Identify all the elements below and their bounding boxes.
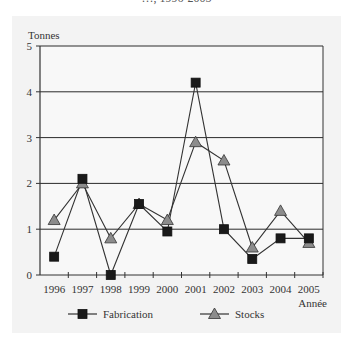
square-marker [304, 234, 313, 243]
y-axis-title: Tonnes [28, 29, 60, 41]
x-tick-label: 1999 [128, 283, 151, 295]
square-marker [219, 225, 228, 234]
x-tick-label: 1998 [100, 283, 123, 295]
square-marker [78, 174, 87, 183]
square-marker [163, 227, 172, 236]
x-tick-label: 2003 [241, 283, 264, 295]
line-chart: 0123451996199719981999200020012002200320… [0, 0, 353, 347]
triangle-marker [209, 308, 221, 319]
y-tick-label: 4 [27, 86, 33, 98]
square-marker [78, 310, 87, 319]
x-tick-label: 2002 [213, 283, 235, 295]
y-tick-label: 3 [27, 132, 33, 144]
y-tick-label: 1 [27, 223, 33, 235]
square-marker [191, 78, 200, 87]
legend-label-stocks: Stocks [235, 308, 264, 320]
y-tick-label: 2 [27, 177, 33, 189]
y-tick-label: 5 [27, 40, 33, 52]
x-tick-label: 1997 [71, 283, 94, 295]
square-marker [276, 234, 285, 243]
y-tick-label: 0 [27, 269, 33, 281]
legend-label-fabrication: Fabrication [103, 308, 154, 320]
square-marker [50, 252, 59, 261]
square-marker [106, 271, 115, 280]
square-marker [135, 200, 144, 209]
legend: FabricationStocks [68, 308, 264, 320]
square-marker [248, 254, 257, 263]
x-tick-label: 1996 [43, 283, 66, 295]
x-tick-label: 2005 [298, 283, 321, 295]
x-tick-label: 2004 [270, 283, 293, 295]
x-tick-label: 2001 [185, 283, 207, 295]
x-tick-label: 2000 [156, 283, 179, 295]
x-axis-title: Année [298, 297, 327, 309]
